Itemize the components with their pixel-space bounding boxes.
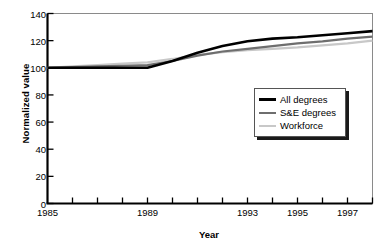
legend-item-label: All degrees (280, 93, 328, 106)
data-series-layer (48, 31, 373, 68)
legend-item: Workforce (259, 119, 340, 132)
legend-line-swatch-icon (259, 125, 276, 127)
legend-item-label: Workforce (280, 119, 323, 132)
legend-line-swatch-icon (259, 98, 276, 101)
chart-legend: All degreesS&E degreesWorkforce (254, 88, 346, 137)
legend-item-label: S&E degrees (280, 106, 336, 119)
series-line (48, 37, 373, 68)
line-chart: Normalized value Year 020406080100120140… (0, 0, 383, 249)
legend-item: S&E degrees (259, 106, 340, 119)
legend-line-swatch-icon (259, 112, 276, 114)
legend-item: All degrees (259, 93, 340, 106)
series-line (48, 31, 373, 68)
